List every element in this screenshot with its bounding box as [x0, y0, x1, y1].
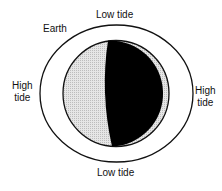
high-tide-left-line1: High [12, 80, 33, 92]
high-tide-right-line2: tide [195, 97, 216, 109]
low-tide-bottom-label: Low tide [97, 167, 134, 179]
high-tide-left-label: High tide [12, 80, 33, 104]
tide-diagram [0, 0, 222, 191]
high-tide-left-line2: tide [12, 92, 33, 104]
high-tide-right-line1: High [195, 85, 216, 97]
low-tide-top-label: Low tide [96, 9, 133, 21]
earth-label: Earth [43, 23, 67, 35]
high-tide-right-label: High tide [195, 85, 216, 109]
